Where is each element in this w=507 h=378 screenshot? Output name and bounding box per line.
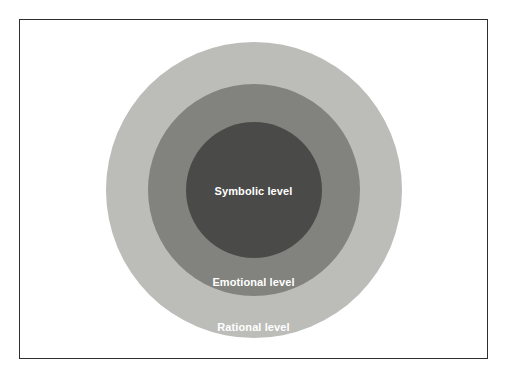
ring-label-emotional: Emotional level: [20, 276, 487, 289]
ring-label-rational: Rational level: [20, 321, 487, 334]
ring-label-symbolic: Symbolic level: [20, 185, 487, 198]
diagram-frame: Symbolic level Emotional level Rational …: [19, 19, 488, 359]
